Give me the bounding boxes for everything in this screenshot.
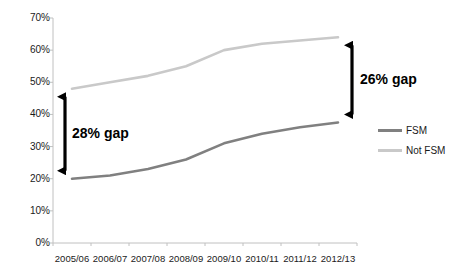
legend-swatch-icon xyxy=(378,129,402,132)
gap-label-left-gap: 28% gap xyxy=(72,125,129,141)
gap-label-right-gap: 26% gap xyxy=(360,71,417,87)
chart-container: 0%10%20%30%40%50%60%70% 2005/062006/0720… xyxy=(0,0,454,274)
legend-item-not-fsm[interactable]: Not FSM xyxy=(378,140,454,160)
legend-swatch-icon xyxy=(378,149,402,152)
chart-legend: FSMNot FSM xyxy=(378,120,454,160)
legend-label: Not FSM xyxy=(406,145,445,156)
legend-item-fsm[interactable]: FSM xyxy=(378,120,454,140)
x-tick-label: 2012/13 xyxy=(316,253,360,264)
legend-label: FSM xyxy=(406,125,427,136)
